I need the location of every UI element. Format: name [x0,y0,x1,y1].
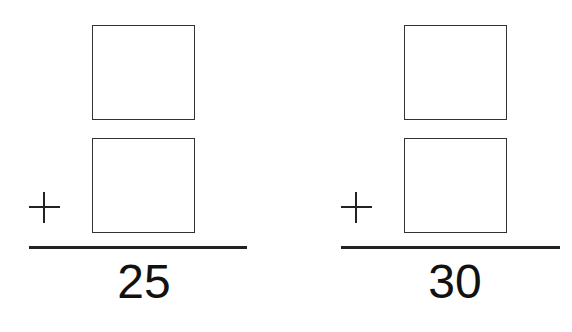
addition-problem-2: 30 [0,0,286,332]
top-addend-box[interactable] [404,25,507,120]
bottom-addend-box[interactable] [404,138,507,233]
plus-icon [341,192,372,223]
sum-line [341,246,560,249]
sum-value: 30 [401,258,509,306]
